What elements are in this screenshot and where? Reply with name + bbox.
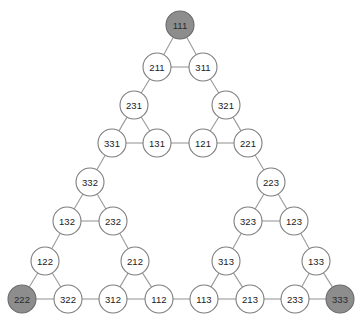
graph-edge — [141, 117, 150, 131]
node-label: 123 — [286, 216, 302, 227]
graph-edge — [52, 233, 61, 248]
node-label: 113 — [196, 294, 211, 305]
graph-node[interactable]: 311 — [189, 53, 217, 81]
graph-edge — [74, 194, 83, 209]
node-label: 331 — [104, 138, 120, 149]
graph-node[interactable]: 313 — [212, 247, 240, 275]
graph-edge — [255, 194, 264, 209]
graph-edge — [323, 273, 332, 287]
graph-edge — [97, 194, 106, 209]
node-label: 233 — [287, 294, 303, 305]
graph-edge — [301, 233, 310, 248]
graph-edge — [233, 233, 242, 248]
node-label: 322 — [60, 294, 76, 305]
node-label: 223 — [263, 177, 279, 188]
graph-node[interactable]: 323 — [234, 207, 262, 235]
node-label: 232 — [105, 216, 121, 227]
graph-node[interactable]: 223 — [257, 168, 285, 196]
graph-edge — [302, 273, 309, 287]
node-label: 212 — [127, 256, 143, 267]
graph-node[interactable]: 112 — [145, 285, 173, 313]
graph-edge — [120, 233, 129, 248]
graph-node[interactable]: 221 — [234, 129, 262, 157]
graph-edge — [52, 273, 61, 287]
graph-node[interactable]: 213 — [236, 285, 264, 313]
graph-node[interactable]: 212 — [121, 247, 149, 275]
graph-node[interactable]: 233 — [281, 285, 309, 313]
graph-node[interactable]: 312 — [99, 285, 127, 313]
graph-node[interactable]: 133 — [302, 247, 330, 275]
graph-node[interactable]: 331 — [98, 129, 126, 157]
edge-layer — [29, 37, 332, 299]
graph-node[interactable]: 322 — [54, 285, 82, 313]
graph-edge — [210, 79, 219, 93]
graph-node[interactable]: 131 — [143, 129, 171, 157]
node-label: 313 — [218, 256, 234, 267]
node-layer: 1112113112313213311311212213322231322323… — [8, 11, 354, 313]
hanoi-graph-figure: 1112113112313213311311212213322231322323… — [0, 0, 363, 327]
graph-edge — [141, 79, 150, 93]
graph-edge — [187, 37, 197, 54]
graph-node[interactable]: 232 — [99, 207, 127, 235]
node-label: 111 — [173, 20, 188, 31]
graph-canvas: 1112113112313213311311212213322231322323… — [0, 0, 363, 327]
node-label: 312 — [105, 294, 121, 305]
node-label: 323 — [240, 216, 256, 227]
node-label: 321 — [218, 100, 234, 111]
graph-edge — [120, 273, 128, 287]
graph-edge — [119, 117, 127, 131]
graph-edge — [278, 194, 287, 209]
graph-edge — [97, 155, 105, 170]
graph-node[interactable]: 123 — [280, 207, 308, 235]
graph-node[interactable]: 132 — [53, 207, 81, 235]
graph-node[interactable]: 113 — [190, 285, 218, 313]
node-label: 112 — [151, 294, 166, 305]
graph-node[interactable]: 211 — [143, 53, 171, 81]
node-label: 311 — [195, 62, 210, 73]
graph-node[interactable]: 222 — [8, 285, 36, 313]
graph-node[interactable]: 231 — [120, 91, 148, 119]
graph-edge — [29, 273, 38, 287]
graph-node[interactable]: 122 — [31, 247, 59, 275]
graph-edge — [142, 273, 151, 287]
graph-node[interactable]: 111 — [166, 11, 194, 39]
node-label: 122 — [37, 256, 53, 267]
graph-edge — [255, 155, 264, 170]
node-label: 333 — [332, 294, 348, 305]
node-label: 222 — [14, 294, 30, 305]
graph-edge — [164, 37, 174, 54]
graph-edge — [233, 117, 241, 131]
node-label: 221 — [240, 138, 256, 149]
node-label: 131 — [149, 138, 165, 149]
node-label: 211 — [149, 62, 164, 73]
graph-edge — [211, 273, 219, 287]
node-label: 332 — [82, 177, 98, 188]
graph-node[interactable]: 321 — [212, 91, 240, 119]
graph-node[interactable]: 332 — [76, 168, 104, 196]
graph-node[interactable]: 333 — [326, 285, 354, 313]
node-label: 213 — [242, 294, 258, 305]
node-label: 133 — [308, 256, 324, 267]
node-label: 132 — [59, 216, 75, 227]
graph-edge — [233, 273, 242, 287]
graph-node[interactable]: 121 — [189, 129, 217, 157]
node-label: 121 — [195, 138, 211, 149]
node-label: 231 — [126, 100, 142, 111]
graph-edge — [210, 117, 219, 131]
